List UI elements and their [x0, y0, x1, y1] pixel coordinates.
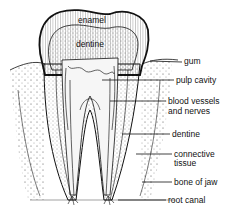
label-pulp-cavity: pulp cavity	[176, 76, 216, 85]
root-tips	[30, 196, 175, 205]
label-root-canal: root canal	[168, 196, 205, 205]
enamel-label: enamel	[78, 16, 106, 25]
label-and-nerves: and nerves	[168, 107, 210, 116]
label-dentine: dentine	[172, 130, 200, 139]
label-gum: gum	[184, 57, 201, 66]
label-bone-of-jaw: bone of jaw	[174, 178, 217, 187]
dentine-crown-label: dentine	[76, 40, 104, 49]
pulp-cavity	[62, 58, 118, 195]
label-tissue: tissue	[174, 159, 196, 168]
label-blood-vessels: blood vessels	[168, 97, 220, 106]
